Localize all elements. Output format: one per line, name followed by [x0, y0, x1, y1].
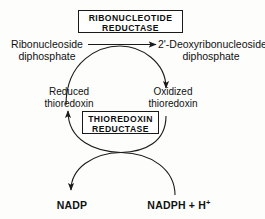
label-ribonucleoside-diphosphate: Ribonucleoside diphosphate [6, 38, 88, 63]
thioredoxin-reductase-line1: THIOREDOXIN [83, 114, 158, 124]
enzyme-box-thioredoxin-reductase: THIOREDOXIN REDUCTASE [82, 111, 159, 134]
ribonucleoside-line2: diphosphate [6, 50, 88, 62]
thioredoxin-reductase-line2: REDUCTASE [83, 124, 158, 134]
nadph-charge-superscript: + [206, 198, 211, 207]
reduced-thioredoxin-line1: Reduced [33, 86, 105, 98]
nadp-output-arc [71, 153, 121, 191]
label-reduced-thioredoxin: Reduced thioredoxin [33, 86, 105, 110]
reduced-thioredoxin-line2: thioredoxin [33, 98, 105, 110]
ribonucleotide-reductase-line2: REDUCTASE [79, 23, 182, 33]
enzyme-box-ribonucleotide-reductase: RIBONUCLEOTIDE REDUCTASE [78, 10, 183, 33]
nadph-text: NADPH + H [147, 199, 206, 211]
ribonucleoside-line1: Ribonucleoside [6, 38, 88, 50]
nadph-input-arc [121, 153, 175, 196]
ribonucleotide-reductase-line1: RIBONUCLEOTIDE [79, 13, 182, 23]
label-oxidized-thioredoxin: Oxidized thioredoxin [137, 86, 209, 110]
label-nadph-h: NADPH + H+ [133, 199, 225, 211]
deoxyribonucleoside-line2: diphosphate [158, 50, 264, 62]
nadp-text: NADP [57, 199, 88, 211]
deoxyribonucleoside-line1: 2'-Deoxyribonucleoside [158, 38, 264, 50]
label-deoxyribonucleoside-diphosphate: 2'-Deoxyribonucleoside diphosphate [158, 38, 264, 63]
oxidized-thioredoxin-line1: Oxidized [137, 86, 209, 98]
oxidized-thioredoxin-line2: thioredoxin [137, 98, 209, 110]
pathway-diagram: RIBONUCLEOTIDE REDUCTASE THIOREDOXIN RED… [0, 0, 265, 219]
label-nadp: NADP [44, 199, 100, 211]
